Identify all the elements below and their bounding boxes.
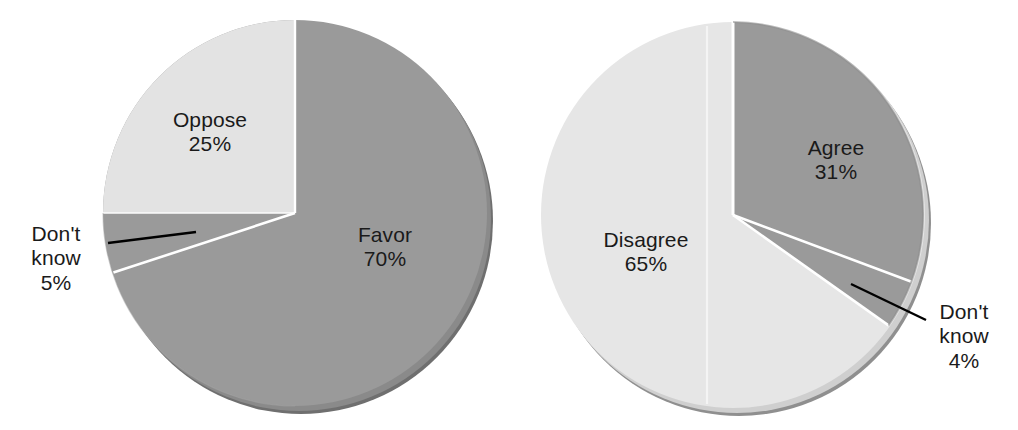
left-label-oppose-value: 25% bbox=[150, 132, 270, 156]
right-label-dont-know-value: 4% bbox=[916, 349, 1012, 373]
left-label-dont-know: Don't know 5% bbox=[8, 222, 104, 295]
left-label-favor-name: Favor bbox=[330, 223, 440, 247]
pie-charts-svg bbox=[0, 0, 1018, 430]
right-label-dont-know-line1: Don't bbox=[916, 300, 1012, 324]
left-label-favor: Favor 70% bbox=[330, 223, 440, 272]
right-label-agree: Agree 31% bbox=[786, 136, 886, 185]
left-label-oppose: Oppose 25% bbox=[150, 108, 270, 157]
right-label-disagree-value: 65% bbox=[576, 252, 716, 276]
right-label-dont-know: Don't know 4% bbox=[916, 300, 1012, 373]
right-label-agree-value: 31% bbox=[786, 160, 886, 184]
right-label-disagree-name: Disagree bbox=[576, 228, 716, 252]
chart-canvas: Oppose 25% Favor 70% Don't know 5% Agree… bbox=[0, 0, 1018, 430]
right-label-dont-know-line2: know bbox=[916, 324, 1012, 348]
left-label-oppose-name: Oppose bbox=[150, 108, 270, 132]
right-label-agree-name: Agree bbox=[786, 136, 886, 160]
right-label-disagree: Disagree 65% bbox=[576, 228, 716, 277]
pie-chart-figure-page: Oppose 25% Favor 70% Don't know 5% Agree… bbox=[0, 0, 1018, 430]
left-label-dont-know-line2: know bbox=[8, 246, 104, 270]
left-label-favor-value: 70% bbox=[330, 247, 440, 271]
left-label-dont-know-value: 5% bbox=[8, 271, 104, 295]
left-label-dont-know-line1: Don't bbox=[8, 222, 104, 246]
